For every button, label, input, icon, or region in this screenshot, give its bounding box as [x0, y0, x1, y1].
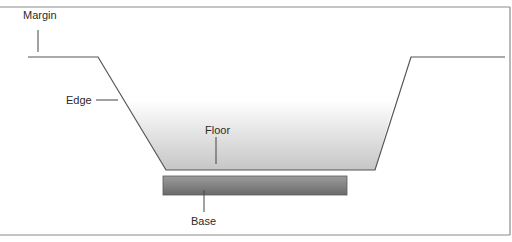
cross-section-diagram: Margin Edge Floor Base [0, 0, 512, 242]
edge-label: Edge [66, 94, 92, 106]
base-block [163, 176, 347, 195]
floor-label: Floor [205, 124, 230, 136]
margin-label: Margin [23, 9, 57, 21]
basin-fill [124, 100, 395, 170]
base-label: Base [191, 215, 216, 227]
